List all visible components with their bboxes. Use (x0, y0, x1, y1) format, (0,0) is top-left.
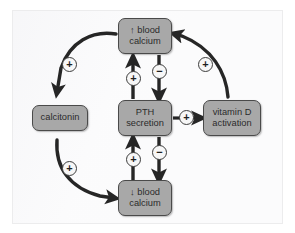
node-low-blood-calcium[interactable]: ↓ blood calcium (118, 180, 172, 216)
node-pth-secretion[interactable]: PTH secretion (118, 100, 172, 136)
node-low-blood-calcium-label: ↓ blood calcium (127, 187, 163, 209)
sign-plus-pth-to-vitamin-d: + (179, 110, 194, 125)
sign-plus-vitamin-d-to-high-calcium: + (198, 57, 213, 72)
diagram-page: ↑ blood calcium PTH secretion ↓ blood ca… (0, 0, 295, 233)
node-high-blood-calcium[interactable]: ↑ blood calcium (118, 18, 172, 54)
node-calcitonin[interactable]: calcitonin (32, 105, 88, 131)
sign-minus-high-calcium-to-pth: − (152, 64, 167, 79)
node-calcitonin-label: calcitonin (39, 112, 82, 123)
node-vitamin-d-activation-label: vitamin D activation (210, 107, 253, 129)
sign-plus-calcitonin-to-low-calcium: + (62, 161, 77, 176)
sign-plus-low-calcium-to-pth: + (126, 152, 141, 167)
sign-plus-high-calcium-to-calcitonin: + (62, 57, 77, 72)
sign-plus-pth-to-high-calcium: + (126, 71, 141, 86)
node-pth-secretion-label: PTH secretion (124, 107, 166, 129)
sign-minus-pth-to-low-calcium: − (152, 145, 167, 160)
node-vitamin-d-activation[interactable]: vitamin D activation (203, 100, 261, 136)
node-high-blood-calcium-label: ↑ blood calcium (127, 25, 163, 47)
